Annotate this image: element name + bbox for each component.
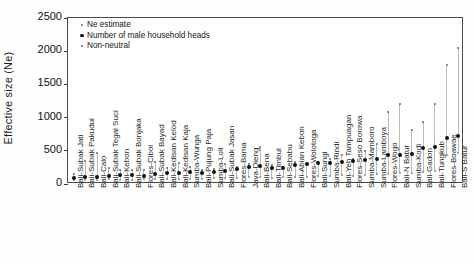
data-point [364,174,366,176]
x-tick-label: Bali-Bena [262,153,271,188]
x-tick-label: Flores-Wogo [390,142,399,188]
data-point [131,179,133,181]
y-tick-label: 1000 [38,110,62,122]
x-tick-label: Flores-Bama [239,142,248,188]
x-tick-label: Flores-Cibol [146,145,155,188]
y-tick-label: 2000 [38,43,62,55]
range-bar [399,104,400,173]
data-point [399,103,401,105]
x-tick-label: Bali-Pujung Paja [204,129,213,188]
data-point [143,178,145,180]
x-tick-label: Flores-Wolotoga [309,129,318,188]
x-tick-label: Bali-N Batur [402,145,411,188]
x-tick-label: Bali-Kedisan Kelod [169,120,178,188]
range-bar [434,104,435,172]
data-point [434,170,436,172]
x-tick-label: Java-Dieng [251,148,260,188]
x-tick-label: Sumba-Loli [216,148,225,188]
x-tick-label: Bali-Yeh Tampuagan [344,115,353,188]
x-tick-label: Bali-Subak Pakudui [87,118,96,188]
x-tick-label: Bali-Sungi [320,152,329,188]
y-tick-label: 0 [56,176,62,188]
x-tick-label: Sumba-Rindi [332,142,341,188]
x-tick-label: Sumba-Wunga [192,135,201,188]
data-point [96,152,98,154]
x-tick-label: Bali-Abian Kebon [297,126,306,188]
x-tick-label: Bali-Gadon [425,148,434,188]
y-tick-mark [64,117,68,118]
y-tick-mark [64,84,68,85]
large-dot-icon [78,31,86,42]
legend-label: Number of male household heads [87,31,210,42]
data-point [236,177,238,179]
data-point [399,172,401,174]
x-tick-label: Bali-Subak Jati [76,135,85,188]
data-point [329,175,331,177]
y-tick-label: 500 [44,143,62,155]
y-tick-mark [64,51,68,52]
x-tick-label: Bali-Calo [99,156,108,188]
legend-label: Ne estimate [87,20,131,31]
data-point [434,103,436,105]
data-point [201,178,203,180]
legend-item-non-neutral: Non-neutral [78,41,210,52]
legend-label: Non-neutral [87,41,130,52]
y-axis-title: Effective size (Ne) [2,18,18,178]
data-point [166,178,168,180]
small-dot-icon [78,20,86,31]
chart-figure: Effective size (Ne) 05001000150020002500… [0,0,474,264]
x-tick-label: Sumba-Mamboro [367,126,376,188]
data-point [364,150,366,152]
range-bar [446,65,447,155]
data-point [131,169,133,171]
x-tick-label: Bali-Tungkub [437,141,446,188]
x-tick-label: Flores-Boawae [449,134,458,188]
x-tick-label: Sumba-Kodi [414,144,423,188]
x-tick-label: Bali-Subak Jasan [227,126,236,188]
x-tick-label: Flores-Seso Borowa [355,116,364,188]
x-tick-label: Bali-S Batur [460,145,469,188]
data-point [108,178,110,180]
x-tick-label: Bali-Kebon [122,149,131,188]
tiny-dot-icon [78,41,86,52]
x-tick-label: Bali-Timbul [274,148,283,188]
y-tick-mark [64,150,68,151]
data-point [387,111,389,113]
x-tick-label: Bali-Subak Bayad [157,124,166,188]
data-point [96,179,98,181]
data-point [271,177,273,179]
chart-legend: Ne estimate Number of male household hea… [78,20,210,52]
y-tick-mark [64,18,68,19]
data-point [73,173,75,175]
data-point [446,64,448,66]
data-point [445,136,449,140]
data-point [166,167,168,169]
range-bar [341,155,342,176]
x-tick-label: Bali-Kedisan Kaja [181,125,190,188]
range-bar [365,151,366,175]
data-point [294,176,296,178]
x-tick-label: Bali-Sebabu [285,144,294,188]
legend-item-male-household-heads: Number of male household heads [78,31,210,42]
y-tick-mark [64,184,68,185]
data-point [341,174,343,176]
x-tick-label: Bali-Subak Tegal Suci [111,110,120,188]
data-point [341,154,343,156]
data-point [457,47,459,49]
x-tick-label: Sumba-Lamboya [379,127,388,188]
data-point [306,176,308,178]
y-tick-label: 1500 [38,76,62,88]
data-point [411,129,413,131]
legend-item-ne-estimate: Ne estimate [78,20,210,31]
data-point [422,121,424,123]
x-tick-label: Bali-Subak Bonjaka [134,118,143,188]
y-tick-label: 2500 [38,10,62,22]
